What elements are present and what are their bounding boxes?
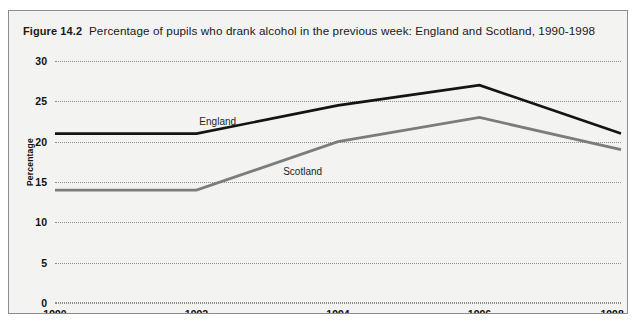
plot-inner: 051015202530 EnglandScotland 19901992199… — [55, 61, 621, 303]
series-label-england: England — [199, 115, 236, 126]
y-tick-label-5: 5 — [41, 257, 47, 269]
y-tick-label-25: 25 — [35, 95, 47, 107]
figure-title: Figure 14.2 Percentage of pupils who dra… — [23, 24, 618, 37]
y-tick-label-20: 20 — [35, 136, 47, 148]
x-tick-label-1998: 1998 — [600, 308, 623, 314]
series-label-scotland: Scotland — [283, 165, 322, 176]
figure-panel: Figure 14.2 Percentage of pupils who dra… — [8, 10, 628, 314]
figure-caption: Percentage of pupils who drank alcohol i… — [89, 24, 595, 37]
plot-area: 051015202530 EnglandScotland 19901992199… — [55, 61, 621, 303]
x-tick-label-1992: 1992 — [185, 308, 208, 314]
x-tick-label-1996: 1996 — [468, 308, 491, 314]
y-tick-label-30: 30 — [35, 55, 47, 67]
y-axis-title: Percentage — [25, 138, 35, 186]
series-lines — [55, 61, 621, 303]
figure-number: Figure 14.2 — [23, 25, 82, 37]
x-tick-label-1990: 1990 — [43, 308, 66, 314]
line-england — [55, 85, 621, 133]
x-tick-label-1994: 1994 — [326, 308, 349, 314]
y-tick-label-10: 10 — [35, 216, 47, 228]
y-tick-label-15: 15 — [35, 176, 47, 188]
gridline-0 — [55, 303, 621, 304]
line-scotland — [55, 117, 621, 190]
